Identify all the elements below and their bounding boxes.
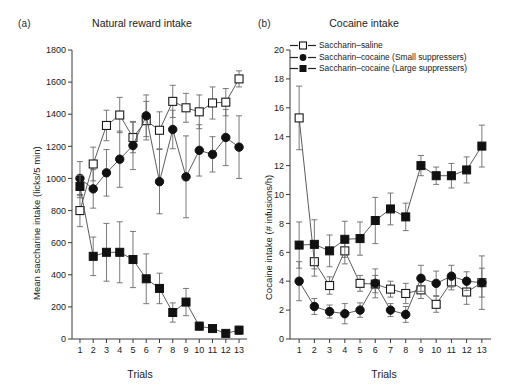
- x-tick-label: 8: [170, 345, 175, 355]
- x-tick-label: 12: [462, 345, 472, 355]
- data-point-open-square: [356, 279, 364, 287]
- x-tick-label: 11: [447, 345, 456, 355]
- x-tick-label: 13: [234, 345, 244, 355]
- data-point-open-square: [222, 98, 230, 106]
- data-point-filled-square: [387, 205, 395, 213]
- x-tick-label: 7: [388, 345, 393, 355]
- y-tick-label: 400: [51, 270, 66, 280]
- data-point-filled-square: [310, 240, 318, 248]
- data-point-filled-circle: [325, 307, 333, 315]
- y-tick-label: 1600: [46, 77, 66, 87]
- data-point-open-square: [182, 104, 190, 112]
- y-tick-label: 0: [279, 334, 284, 344]
- x-tick-label: 6: [373, 345, 378, 355]
- y-tick-label: 2: [279, 305, 284, 315]
- data-point-filled-circle: [402, 310, 410, 318]
- data-point-filled-square: [116, 248, 124, 256]
- data-point-filled-circle: [356, 306, 364, 314]
- x-tick-label: 6: [144, 345, 149, 355]
- x-tick-label: 8: [403, 345, 408, 355]
- x-tick-label: 13: [477, 345, 487, 355]
- data-point-filled-square: [169, 309, 177, 317]
- chart-svg-a: 0200400600800100012001400160018001234567…: [0, 0, 257, 390]
- x-tick-label: 2: [91, 345, 96, 355]
- data-point-filled-circle: [447, 272, 455, 280]
- y-tick-label: 600: [51, 238, 66, 248]
- x-tick-label: 1: [297, 345, 302, 355]
- y-tick-label: 1800: [46, 45, 66, 55]
- panel-b: (b) Cocaine intake Cocaine intake (# inf…: [256, 0, 513, 390]
- legend-item: Saccharin–cocaine (Small suppressers): [290, 52, 467, 64]
- y-tick-label: 200: [51, 302, 66, 312]
- data-point-filled-square: [341, 235, 349, 243]
- data-point-filled-square: [102, 248, 110, 256]
- data-point-open-square: [402, 289, 410, 297]
- y-tick-label: 18: [274, 74, 284, 84]
- data-point-open-square: [76, 207, 84, 215]
- data-point-open-square: [102, 121, 110, 129]
- data-point-filled-square: [447, 172, 455, 180]
- data-point-filled-square: [356, 235, 364, 243]
- legend-item-label: Saccharin–saline: [319, 40, 383, 52]
- legend-marker-open-square-icon: [290, 40, 316, 51]
- data-point-open-square: [209, 99, 217, 107]
- x-tick-label: 10: [431, 345, 441, 355]
- data-point-filled-square: [432, 172, 440, 180]
- data-point-filled-circle: [432, 279, 440, 287]
- data-point-filled-circle: [386, 306, 394, 314]
- data-point-filled-circle: [417, 274, 425, 282]
- data-point-filled-circle: [116, 155, 124, 163]
- x-tick-label: 3: [327, 345, 332, 355]
- data-point-filled-circle: [235, 143, 243, 151]
- y-tick-label: 1400: [46, 109, 66, 119]
- series-2: [295, 125, 486, 269]
- data-point-filled-circle: [341, 310, 349, 318]
- y-tick-label: 0: [61, 334, 66, 344]
- x-tick-label: 2: [312, 345, 317, 355]
- data-point-filled-square: [89, 252, 97, 260]
- data-point-open-square: [295, 114, 303, 122]
- y-tick-label: 20: [274, 45, 284, 55]
- x-tick-label: 10: [194, 345, 204, 355]
- legend: Saccharin–salineSaccharin–cocaine (Small…: [290, 40, 467, 75]
- legend-item-label: Saccharin–cocaine (Small suppressers): [319, 52, 467, 64]
- data-point-open-square: [89, 160, 97, 168]
- data-point-filled-square: [182, 298, 190, 306]
- data-point-filled-square: [417, 162, 425, 170]
- y-tick-label: 4: [279, 276, 284, 286]
- data-point-filled-square: [222, 329, 230, 337]
- data-point-filled-square: [76, 182, 84, 190]
- data-point-open-square: [387, 285, 395, 293]
- x-tick-label: 5: [358, 345, 363, 355]
- data-point-open-square: [432, 300, 440, 308]
- legend-item-label: Saccharin–cocaine (Large suppressers): [319, 63, 467, 75]
- legend-marker-filled-square-icon: [290, 63, 316, 74]
- x-tick-label: 3: [104, 345, 109, 355]
- x-tick-label: 1: [77, 345, 82, 355]
- y-tick-label: 1000: [46, 174, 66, 184]
- y-tick-label: 6: [279, 248, 284, 258]
- data-point-filled-square: [326, 247, 334, 255]
- y-tick-label: 10: [274, 190, 284, 200]
- figure-container: (a) Natural reward intake Mean saccharin…: [0, 0, 513, 390]
- x-tick-label: 5: [130, 345, 135, 355]
- data-point-open-square: [195, 108, 203, 116]
- data-point-open-square: [235, 75, 243, 83]
- data-point-filled-square: [195, 322, 203, 330]
- y-tick-label: 14: [274, 132, 284, 142]
- data-point-filled-circle: [89, 185, 97, 193]
- data-point-filled-square: [142, 275, 150, 283]
- x-tick-label: 12: [221, 345, 231, 355]
- data-point-filled-circle: [102, 169, 110, 177]
- data-point-filled-square: [371, 217, 379, 225]
- data-point-open-square: [156, 126, 164, 134]
- y-tick-label: 1200: [46, 142, 66, 152]
- data-point-open-square: [326, 282, 334, 290]
- data-point-filled-circle: [222, 133, 230, 141]
- x-tick-label: 11: [208, 345, 217, 355]
- data-point-filled-circle: [142, 112, 150, 120]
- data-point-filled-circle: [478, 278, 486, 286]
- data-point-filled-circle: [182, 173, 190, 181]
- data-point-filled-circle: [208, 150, 216, 158]
- data-point-filled-circle: [195, 146, 203, 154]
